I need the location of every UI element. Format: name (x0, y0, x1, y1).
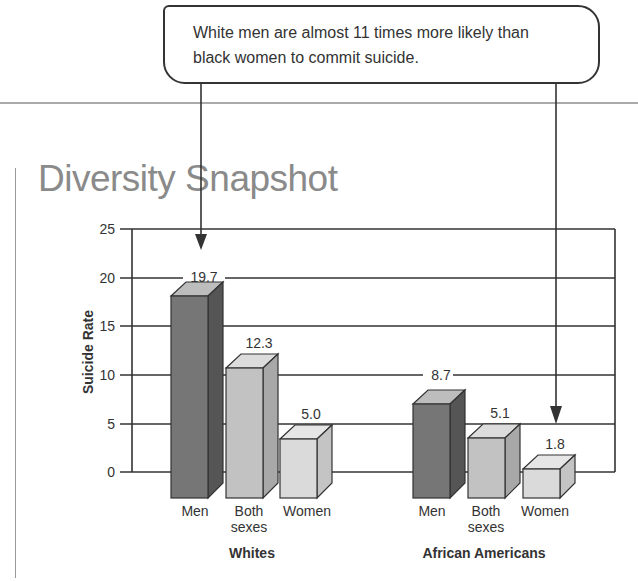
y-axis-ticks: 25 20 15 10 5 0 (99, 221, 115, 480)
svg-text:Women: Women (283, 503, 331, 519)
bar-whites-both (226, 354, 278, 498)
bar-aa-both (468, 424, 520, 498)
svg-text:Men: Men (418, 503, 445, 519)
value-label: 1.8 (545, 436, 565, 452)
svg-text:Both: Both (472, 503, 501, 519)
svg-text:Men: Men (181, 503, 208, 519)
value-label: 5.1 (490, 405, 510, 421)
group-label-whites: Whites (229, 545, 275, 561)
value-label: 12.3 (245, 335, 272, 351)
value-label: 5.0 (301, 406, 321, 422)
y-tick: 15 (99, 318, 115, 334)
y-tick: 5 (107, 416, 115, 432)
y-tick: 25 (99, 221, 115, 237)
bar-aa-women (523, 455, 575, 498)
svg-text:sexes: sexes (231, 519, 268, 535)
y-tick: 0 (107, 464, 115, 480)
value-label: 19.7 (190, 269, 217, 285)
arrow-down-icon (195, 234, 207, 250)
bar-whites-women (280, 425, 332, 498)
svg-text:Women: Women (521, 503, 569, 519)
arrow-down-icon (550, 406, 562, 424)
y-tick: 20 (99, 270, 115, 286)
group-label-african-americans: African Americans (422, 545, 545, 561)
svg-text:sexes: sexes (468, 519, 505, 535)
bar-whites-men (171, 282, 223, 498)
y-axis-label: Suicide Rate (80, 310, 96, 394)
value-label: 8.7 (431, 367, 451, 383)
category-labels: Men Both sexes Women Men Both sexes Wome… (181, 503, 569, 535)
y-tick: 10 (99, 367, 115, 383)
bar-chart: 25 20 15 10 5 0 Suicide Rate (0, 0, 638, 581)
bar-aa-men (413, 390, 465, 498)
svg-text:Both: Both (235, 503, 264, 519)
